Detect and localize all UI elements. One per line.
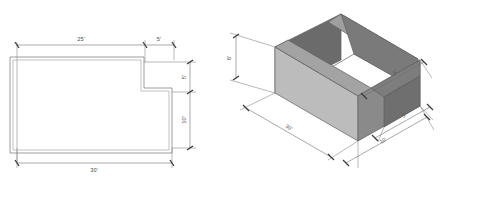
- plan-wall-outline: [10, 57, 172, 153]
- plan-dim-5-top: 5': [157, 36, 161, 42]
- iso-solid: [275, 14, 420, 141]
- plan-dim-30-bottom: 30': [90, 167, 98, 173]
- plan-dimension-lines: [15, 42, 193, 166]
- plan-view: 25' 5' 5' 10' 30': [0, 0, 218, 200]
- plan-dim-10-right: 10': [181, 116, 187, 124]
- isometric-view: 6' 30' 10' 5' 5': [218, 0, 484, 200]
- iso-dim-length: 30': [284, 123, 293, 132]
- iso-dim-height: 6': [226, 56, 232, 60]
- plan-dim-5-right: 5': [181, 75, 187, 79]
- plan-dim-25: 25': [77, 36, 85, 42]
- technical-drawing: 25' 5' 5' 10' 30': [0, 0, 484, 200]
